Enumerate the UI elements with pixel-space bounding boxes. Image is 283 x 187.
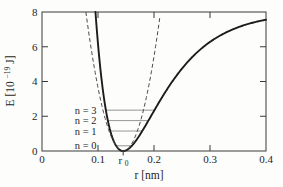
y-axis-title-suffix: J] (4, 55, 16, 63)
potential-energy-figure: n = 0n = 1n = 2n = 3 00.10.20.30.402468 … (0, 0, 283, 187)
potential-energy-chart: n = 0n = 1n = 2n = 3 00.10.20.30.402468 … (0, 0, 283, 187)
y-tick-label: 4 (32, 75, 38, 87)
y-axis-title-prefix: E [10 (4, 81, 16, 106)
y-tick-label: 8 (32, 6, 38, 18)
tick-labels-layer: 00.10.20.30.402468 (32, 6, 273, 165)
y-tick-label: 6 (32, 41, 38, 53)
y-tick-label: 0 (32, 145, 38, 157)
r0-label-symbol: r (118, 154, 122, 166)
x-axis-title: r [nm] (134, 169, 163, 181)
y-axis-title-exponent: −19 (3, 66, 12, 78)
y-tick-label: 2 (32, 110, 38, 122)
energy-level-label-n3: n = 3 (75, 105, 97, 116)
curves-layer (86, 12, 266, 151)
energy-level-label-n0: n = 0 (75, 140, 97, 151)
y-axis-title: E [10 −19 J] (0, 55, 16, 106)
energy-level-label-n1: n = 1 (75, 126, 97, 137)
r0-label-subscript: 0 (125, 159, 129, 168)
x-tick-label: 0.2 (147, 153, 161, 165)
x-tick-label: 0.3 (203, 153, 217, 165)
x-tick-label: 0.4 (259, 153, 273, 165)
energy-level-label-n2: n = 2 (75, 115, 97, 126)
r0-label: r 0 (118, 154, 128, 169)
x-tick-label: 0.1 (91, 153, 105, 165)
morse-potential-curve (95, 12, 266, 151)
x-tick-label: 0 (39, 153, 45, 165)
